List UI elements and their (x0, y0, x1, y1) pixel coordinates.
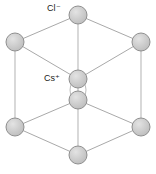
crystal-lattice-svg (0, 0, 156, 174)
atom-cs-body-center[interactable] (69, 91, 87, 109)
caesium-ion-label: Cs⁺ (44, 74, 60, 83)
edge-lower-left-to-center-lower (15, 100, 78, 127)
edge-lower-left-to-bottom (15, 127, 78, 155)
atom-cl-lower-right[interactable] (132, 118, 150, 136)
edge-top-back-to-upper-left (15, 15, 78, 42)
atom-cl-top-back[interactable] (69, 6, 87, 24)
atom-cl-lower-left[interactable] (6, 118, 24, 136)
edge-lower-right-to-bottom (78, 127, 141, 155)
atom-cl-bottom-front[interactable] (69, 146, 87, 164)
edge-lower-right-to-center-lower (78, 100, 141, 127)
chloride-ion-label: Cl⁻ (47, 4, 61, 13)
atom-cl-top-front[interactable] (69, 70, 87, 88)
atom-cl-upper-left[interactable] (6, 33, 24, 51)
crystal-structure-figure: Cl⁻ Cs⁺ (0, 0, 156, 174)
atom-cl-upper-right[interactable] (132, 33, 150, 51)
edge-upper-right-to-top-front (78, 42, 141, 79)
edge-top-back-to-upper-right (78, 15, 141, 42)
